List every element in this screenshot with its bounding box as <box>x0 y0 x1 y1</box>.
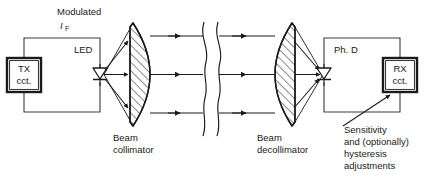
beam-collimator-label-line2: collimator <box>113 144 154 155</box>
collimated-beam-left <box>150 36 203 113</box>
beam-decollimator-label-line1: Beam <box>257 132 282 143</box>
adjustments-note-line2: and (optionally) <box>344 136 409 147</box>
adjustments-leader-line <box>343 95 390 126</box>
forward-current-symbol: I <box>60 20 63 31</box>
tx-block-line2: cct. <box>17 75 32 86</box>
beam-collimator-label-line1: Beam <box>113 132 138 143</box>
adjustments-note-line1: Sensitivity <box>344 124 387 135</box>
path-break-symbol <box>203 22 221 136</box>
collimated-beam-right <box>219 36 275 113</box>
photodiode-label: Ph. D <box>334 44 358 55</box>
led-label: LED <box>74 44 93 55</box>
diverging-rays-transmit <box>104 27 131 122</box>
converging-rays-receive <box>294 27 323 122</box>
adjustments-note-line3: hysteresis <box>344 148 387 159</box>
forward-current-subscript: F <box>65 25 69 32</box>
modulated-label: Modulated <box>57 6 101 17</box>
rx-block-line2: cct. <box>393 75 408 86</box>
adjustments-note-line4: adjustments <box>344 160 395 171</box>
rx-block-line1: RX <box>393 63 407 74</box>
optical-link-diagram: Modulated I F LED TX cct. Beam collimato… <box>0 0 426 177</box>
tx-block-line1: TX <box>18 63 31 74</box>
beam-decollimator-label-line2: decollimator <box>257 144 308 155</box>
